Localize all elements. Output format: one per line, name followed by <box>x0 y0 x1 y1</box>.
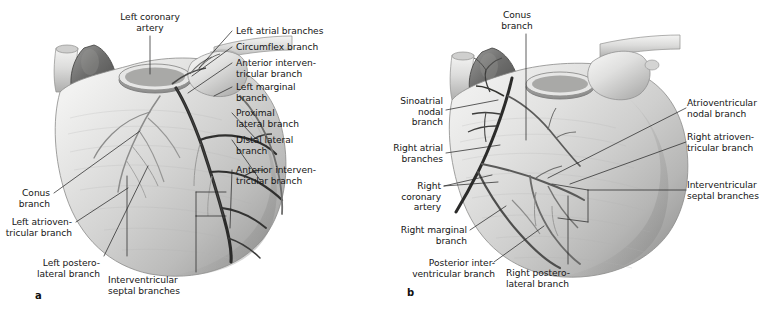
panel-b: Conus branch Sinoatrial nodal branch Rig… <box>391 0 782 316</box>
label-right-atrioventricular-branch: Right atrioven- tricular branch <box>687 132 782 153</box>
label-right-atrial-branches: Right atrial branches <box>381 143 443 164</box>
label-right-posterolateral-branch: Right postero- lateral branch <box>506 268 602 289</box>
label-right-coronary-artery: Right coronary artery <box>385 181 441 213</box>
label-proximal-lateral-branch: Proximal lateral branch <box>236 108 386 129</box>
coronary-artery-figure: Left coronary artery Left atrial branche… <box>0 0 782 316</box>
panel-letter-b: b <box>407 287 414 298</box>
label-right-marginal-branch: Right marginal branch <box>383 225 467 246</box>
label-conus-branch-b: Conus branch <box>477 10 557 31</box>
label-atrioventricular-nodal-branch: Atrioventricular nodal branch <box>687 98 782 119</box>
label-left-posterolateral-branch: Left postero- lateral branch <box>30 258 100 279</box>
panel-letter-a: a <box>35 290 42 301</box>
label-left-atrial-branches: Left atrial branches <box>236 26 386 37</box>
label-anterior-interventricular-branch-lower: Anterior interven- tricular branch <box>236 165 388 186</box>
label-conus-branch: Conus branch <box>0 188 50 209</box>
label-circumflex-branch: Circumflex branch <box>236 42 386 53</box>
panel-a: Left coronary artery Left atrial branche… <box>0 0 391 316</box>
label-left-marginal-branch: Left marginal branch <box>236 82 386 103</box>
label-left-coronary-artery: Left coronary artery <box>100 12 200 33</box>
label-sinoatrial-nodal-branch: Sinoatrial nodal branch <box>381 96 443 128</box>
label-posterior-interventricular-branch: Posterior inter- ventricular branch <box>399 258 495 279</box>
label-interventricular-septal-branches-b: Interventricular septal branches <box>687 180 782 201</box>
label-distal-lateral-branch: Distal lateral branch <box>236 135 386 156</box>
label-left-atrioventricular-branch: Left atrioven- tricular branch <box>0 217 72 238</box>
label-interventricular-septal-branches-a: Interventricular septal branches <box>108 275 218 296</box>
label-anterior-interventricular-branch-upper: Anterior interven- tricular branch <box>236 58 388 79</box>
